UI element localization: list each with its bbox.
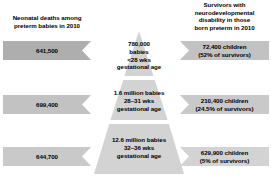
disability-banner-band-1-text: 72,400 children (52% of survivors)	[180, 41, 269, 60]
deaths-value-band-2: 699,400	[36, 101, 58, 109]
right-column-header-line-4: born preterm in 2010	[179, 24, 270, 32]
band-2-line-1: 1.6 million babies	[87, 89, 191, 97]
pyramid-band-2-label: 1.6 million babies 28–31 wks gestational…	[87, 89, 191, 112]
deaths-banner-band-1-text: 641,500	[3, 41, 91, 60]
deaths-banner-band-3: 644,700	[3, 147, 91, 166]
band-1-line-3: <28 wks	[87, 56, 191, 64]
pyramid-band-1-label: 780,000 babies <28 wks gestational age	[87, 40, 191, 71]
band-1-line-4: gestational age	[87, 63, 191, 71]
deaths-banner-band-1: 641,500	[3, 41, 91, 60]
disability-banner-band-2-text: 210,400 children (24.5% of survivors)	[180, 95, 269, 114]
left-column-header-line-2: preterm babies in 2010	[2, 22, 92, 30]
preterm-outcomes-figure: Neonatal deaths among preterm babies in …	[0, 0, 271, 178]
left-column-header-line-1: Neonatal deaths among	[2, 14, 92, 22]
band-2-line-2: 28–31 wks	[87, 97, 191, 105]
deaths-banner-band-3-text: 644,700	[3, 147, 91, 166]
disability-banner-band-2: 210,400 children (24.5% of survivors)	[180, 95, 269, 114]
right-column-header: Survivors with neurodevelopmental disabi…	[179, 1, 270, 31]
deaths-banner-band-2: 699,400	[3, 95, 91, 114]
disability-banner-band-1: 72,400 children (52% of survivors)	[180, 41, 269, 60]
deaths-banner-band-2-text: 699,400	[3, 95, 91, 114]
left-column-header: Neonatal deaths among preterm babies in …	[2, 14, 92, 29]
right-column-header-line-1: Survivors with	[179, 1, 270, 9]
disability-banner-band-3: 629,900 children (5% of survivors)	[180, 147, 269, 166]
disability-percent-band-3: (5% of survivors)	[200, 157, 249, 165]
deaths-value-band-1: 641,500	[36, 47, 58, 55]
deaths-value-band-3: 644,700	[36, 153, 58, 161]
disability-value-band-3: 629,900 children	[201, 149, 248, 157]
band-3-line-2: 32–36 wks	[87, 144, 191, 152]
disability-percent-band-1: (52% of survivors)	[198, 51, 251, 59]
band-2-line-3: gestational age	[87, 105, 191, 113]
disability-value-band-1: 72,400 children	[203, 43, 247, 51]
disability-banner-band-3-text: 629,900 children (5% of survivors)	[180, 147, 269, 166]
disability-percent-band-2: (24.5% of survivors)	[196, 105, 254, 113]
right-column-header-line-2: neurodevelopmental	[179, 9, 270, 17]
disability-value-band-2: 210,400 children	[201, 97, 248, 105]
band-1-line-2: babies	[87, 48, 191, 56]
band-3-line-1: 12.6 million babies	[87, 136, 191, 144]
band-1-line-1: 780,000	[87, 40, 191, 48]
band-3-line-3: gestational age	[87, 152, 191, 160]
right-column-header-line-3: disability in those	[179, 16, 270, 24]
pyramid-band-3-label: 12.6 million babies 32–36 wks gestationa…	[87, 136, 191, 159]
